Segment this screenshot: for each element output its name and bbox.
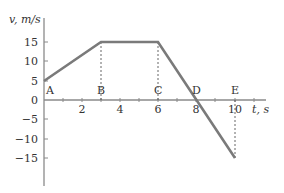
x-tick-10: 10 bbox=[228, 103, 242, 116]
y-tick-15: 15 bbox=[24, 36, 38, 49]
x-tick-4: 4 bbox=[117, 103, 124, 116]
x-axis-label: t, s bbox=[252, 103, 269, 116]
y-tick-5: 5 bbox=[31, 75, 38, 88]
point-label-d: D bbox=[192, 84, 201, 97]
y-tick-m10: −10 bbox=[15, 133, 38, 146]
y-tick-m5: −5 bbox=[22, 113, 38, 126]
x-tick-2: 2 bbox=[79, 103, 86, 116]
y-tick-10: 10 bbox=[24, 55, 38, 68]
velocity-time-chart: 15 10 5 0 −5 −10 −15 2 4 6 8 10 v, m/s t… bbox=[0, 0, 284, 193]
x-tick-8: 8 bbox=[193, 103, 200, 116]
point-label-e: E bbox=[231, 84, 239, 97]
point-label-b: B bbox=[97, 84, 105, 97]
chart-svg: 15 10 5 0 −5 −10 −15 2 4 6 8 10 v, m/s t… bbox=[0, 0, 284, 193]
y-tick-0: 0 bbox=[31, 94, 38, 107]
point-label-c: C bbox=[154, 84, 162, 97]
x-tick-6: 6 bbox=[155, 103, 162, 116]
y-axis-label: v, m/s bbox=[9, 13, 41, 26]
y-tick-m15: −15 bbox=[15, 152, 38, 165]
point-label-a: A bbox=[45, 84, 55, 97]
